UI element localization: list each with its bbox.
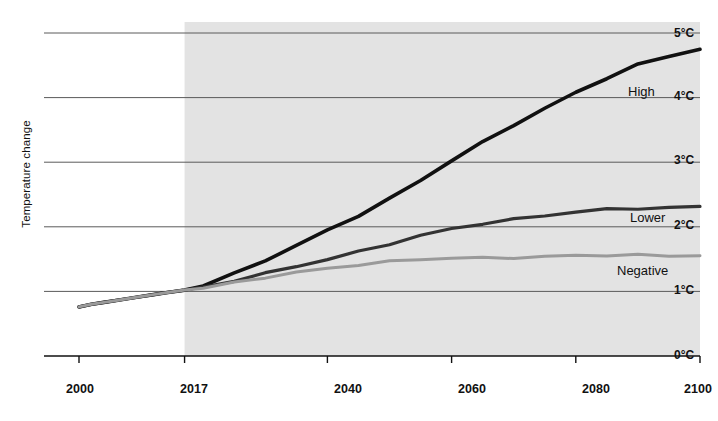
- series-label-high: High: [628, 84, 655, 99]
- x-tick-label-2040: 2040: [334, 382, 362, 396]
- y-tick-label-4: 4°C: [674, 89, 718, 103]
- x-tick-label-2100: 2100: [684, 382, 712, 396]
- y-tick-label-2: 2°C: [674, 218, 718, 232]
- y-tick-label-3: 3°C: [674, 153, 718, 167]
- x-axis-ticks-group: [79, 356, 700, 363]
- series-label-lower: Lower: [630, 210, 665, 225]
- x-tick-label-2000: 2000: [66, 382, 94, 396]
- series-label-negative: Negative: [617, 263, 668, 278]
- plot-surface: [0, 0, 718, 421]
- y-tick-label-5: 5°C: [674, 26, 718, 40]
- y-axis-title: Temperature change: [20, 104, 32, 244]
- x-tick-label-2017: 2017: [180, 382, 208, 396]
- y-tick-label-0: 0°C: [674, 348, 718, 362]
- y-tick-label-1: 1°C: [674, 283, 718, 297]
- x-tick-label-2080: 2080: [582, 382, 610, 396]
- temperature-projection-chart: Temperature change 5°C 4°C 3°C 2°C 1°C 0…: [0, 0, 718, 421]
- x-tick-label-2060: 2060: [458, 382, 486, 396]
